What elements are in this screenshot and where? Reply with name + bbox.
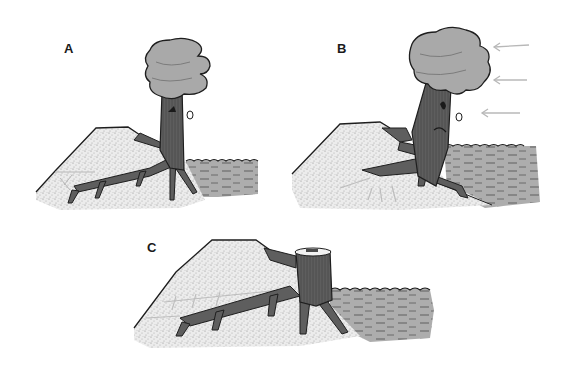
trunk-a bbox=[160, 86, 193, 170]
panel-b bbox=[292, 27, 540, 210]
canopy-a bbox=[145, 38, 210, 98]
stump-c bbox=[295, 248, 332, 306]
illustration: A B C bbox=[0, 0, 568, 369]
panel-a bbox=[36, 38, 258, 210]
wind-arrow-icon bbox=[494, 43, 529, 51]
figure-svg bbox=[0, 0, 568, 369]
panel-c bbox=[134, 240, 434, 348]
wind-arrow-icon bbox=[482, 109, 520, 117]
canopy-b bbox=[409, 27, 490, 94]
wind-arrow-icon bbox=[494, 76, 527, 84]
